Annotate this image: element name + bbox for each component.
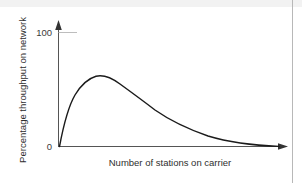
throughput-vs-stations-plot: 100 0 Number of stations on carrier Perc…: [0, 0, 302, 183]
y-tick-label-100: 100: [36, 27, 52, 38]
y-axis-arrowhead: [55, 20, 62, 30]
y-tick-label-0: 0: [47, 141, 52, 152]
throughput-curve: [60, 76, 280, 147]
x-axis-title: Number of stations on carrier: [109, 157, 232, 168]
chart-figure: 100 0 Number of stations on carrier Perc…: [0, 0, 302, 183]
y-axis-title: Percentage throughput on network: [17, 17, 28, 163]
